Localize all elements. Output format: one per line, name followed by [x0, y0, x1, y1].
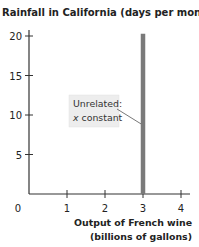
callout-text-line2: x constant	[72, 112, 123, 123]
x-axis-label-line1: Output of French wine	[74, 217, 192, 228]
x-tick-label: 1	[64, 203, 70, 214]
x-tick-label: 0	[15, 203, 21, 214]
y-tick-label: 10	[9, 110, 22, 121]
y-tick-label: 5	[16, 150, 22, 161]
callout: Unrelated: x constant	[69, 95, 141, 127]
y-tick-label: 20	[9, 31, 22, 42]
x-tick-label: 3	[140, 203, 146, 214]
x-tick-label: 4	[178, 203, 184, 214]
x-tick-label: 2	[102, 203, 108, 214]
x-axis-label-line2: (billions of gallons)	[90, 231, 192, 242]
callout-text-line1: Unrelated:	[73, 98, 122, 109]
chart-title: Rainfall in California (days per month)	[2, 7, 199, 18]
chart: Rainfall in California (days per month) …	[0, 0, 199, 247]
y-tick-label: 15	[9, 71, 22, 82]
